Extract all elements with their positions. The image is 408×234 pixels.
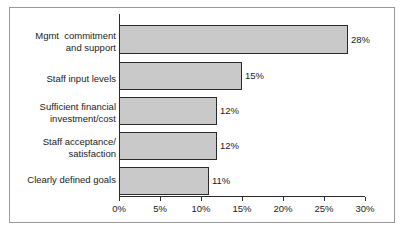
category-axis-line — [119, 14, 120, 197]
axis-tick-1 — [160, 197, 161, 201]
bar-4[interactable] — [119, 167, 209, 195]
category-label-4: Clearly defined goals — [0, 174, 116, 186]
bar-value-2: 12% — [220, 106, 239, 116]
category-label-1: Staff input levels — [0, 73, 116, 85]
category-label-3: Staff acceptance/ satisfaction — [0, 136, 116, 159]
axis-tick-5 — [324, 197, 325, 201]
bar-value-0: 28% — [351, 35, 370, 45]
axis-tick-3 — [242, 197, 243, 201]
axis-tick-0 — [119, 197, 120, 201]
bar-value-4: 11% — [212, 176, 230, 186]
axis-tick-label-0: 0% — [99, 203, 139, 214]
axis-tick-label-4: 20% — [263, 203, 303, 214]
bar-1[interactable] — [119, 62, 242, 90]
axis-tick-6 — [365, 197, 366, 201]
category-label-0: Mgmt commitment and support — [0, 30, 116, 53]
bar-3[interactable] — [119, 132, 217, 160]
bar-0[interactable] — [119, 25, 348, 54]
axis-tick-4 — [283, 197, 284, 201]
bar-2[interactable] — [119, 97, 217, 125]
axis-tick-label-3: 15% — [222, 203, 262, 214]
axis-tick-label-2: 10% — [181, 203, 221, 214]
axis-tick-label-5: 25% — [304, 203, 344, 214]
axis-tick-2 — [201, 197, 202, 201]
category-label-2: Sufficient financial investment/cost — [0, 101, 116, 124]
chart-frame: Mgmt commitment and support Staff input … — [9, 7, 395, 223]
bar-value-1: 15% — [245, 71, 264, 81]
axis-tick-label-1: 5% — [140, 203, 180, 214]
axis-tick-label-6: 30% — [345, 203, 385, 214]
bar-chart-plot-area: Mgmt commitment and support Staff input … — [10, 8, 396, 224]
bar-value-3: 12% — [220, 141, 239, 151]
